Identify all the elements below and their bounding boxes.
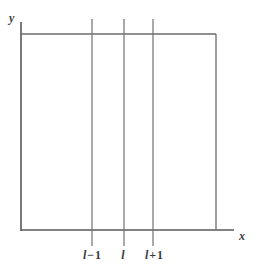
figure-drawing bbox=[0, 0, 271, 276]
tick-label-l: l bbox=[121, 249, 126, 261]
tick-label-l-plus-1: l+1 bbox=[145, 249, 163, 261]
figure-container: y x l−1 l l+1 bbox=[0, 0, 271, 276]
tick-number: 1 bbox=[157, 248, 163, 262]
tick-operator: − bbox=[86, 248, 95, 262]
y-axis-label: y bbox=[9, 12, 14, 24]
tick-operator: + bbox=[148, 248, 157, 262]
tick-label-l-minus-1: l−1 bbox=[83, 249, 101, 261]
x-axis-label: x bbox=[239, 230, 245, 242]
tick-operator bbox=[125, 248, 127, 262]
tick-number: 1 bbox=[95, 248, 101, 262]
